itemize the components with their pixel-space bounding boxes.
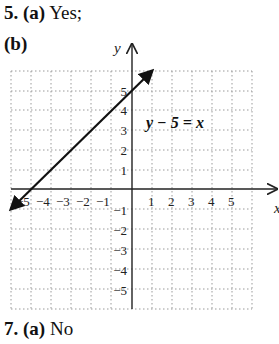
svg-text:−5: −5 xyxy=(113,283,127,298)
svg-text:1: 1 xyxy=(121,163,128,178)
svg-text:4: 4 xyxy=(208,194,215,209)
svg-text:3: 3 xyxy=(188,194,195,209)
svg-text:2: 2 xyxy=(121,143,128,158)
problem-number: 7. xyxy=(4,318,18,339)
problem-7-part-a: 7. (a) No xyxy=(4,318,73,340)
svg-text:3: 3 xyxy=(121,123,128,138)
svg-text:−4: −4 xyxy=(113,263,127,278)
svg-text:1: 1 xyxy=(148,194,155,209)
coordinate-graph: y x −5 −4 −3 −2 −1 1 2 3 4 5 5 4 3 2 1 −… xyxy=(0,0,279,344)
svg-text:−1: −1 xyxy=(113,203,127,218)
svg-text:5: 5 xyxy=(228,194,235,209)
svg-text:−2: −2 xyxy=(113,223,127,238)
equation-label: y − 5 = x xyxy=(144,114,204,132)
svg-text:−3: −3 xyxy=(56,194,70,209)
svg-text:−2: −2 xyxy=(76,194,90,209)
y-axis-label: y xyxy=(112,40,121,56)
x-axis-label: x xyxy=(273,200,279,216)
svg-text:4: 4 xyxy=(121,103,128,118)
svg-text:2: 2 xyxy=(168,194,175,209)
part-label: (a) xyxy=(23,318,45,339)
svg-text:−1: −1 xyxy=(96,194,110,209)
svg-text:−4: −4 xyxy=(36,194,50,209)
y-tick-labels: 5 4 3 2 1 −1 −2 −3 −4 −5 xyxy=(113,84,127,298)
svg-text:−3: −3 xyxy=(113,243,127,258)
answer-text: No xyxy=(50,318,73,339)
